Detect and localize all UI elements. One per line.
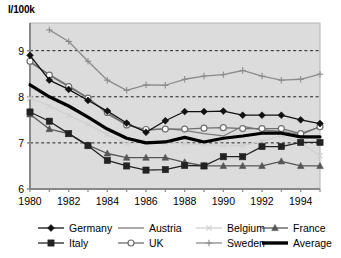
legend-item-sweden[interactable]: Sweden [196, 237, 265, 249]
legend-label: Belgium [227, 222, 265, 234]
svg-text:1988: 1988 [173, 195, 197, 207]
plot-area-background [30, 23, 320, 189]
x-axis-tick-labels: 19801982198419861988199019921994 [18, 195, 312, 207]
legend-label: Italy [69, 237, 89, 249]
svg-text:6: 6 [18, 183, 24, 195]
svg-text:7: 7 [18, 137, 24, 149]
svg-text:1986: 1986 [134, 195, 158, 207]
legend-item-italy[interactable]: Italy [38, 237, 89, 249]
legend-item-germany[interactable]: Germany [38, 222, 113, 234]
legend-label: UK [149, 237, 164, 249]
svg-text:1992: 1992 [250, 195, 274, 207]
svg-text:1984: 1984 [96, 195, 120, 207]
svg-text:1990: 1990 [212, 195, 236, 207]
svg-text:1994: 1994 [289, 195, 313, 207]
y-axis-tick-labels: 6789 [18, 45, 30, 195]
chart-legend: GermanyAustriaBelgiumFranceItalyUKSweden… [38, 222, 332, 249]
legend-item-uk[interactable]: UK [118, 237, 164, 249]
line-chart: 6789 19801982198419861988199019921994 Ge… [0, 0, 341, 258]
legend-label: France [293, 222, 326, 234]
legend-item-average[interactable]: Average [262, 237, 332, 249]
svg-text:9: 9 [18, 45, 24, 57]
legend-label: Germany [69, 222, 113, 234]
chart-figure: I/100k 6789 1980198219841986198819901992… [0, 0, 341, 258]
legend-label: Austria [149, 222, 182, 234]
svg-text:1982: 1982 [57, 195, 81, 207]
legend-label: Average [293, 237, 332, 249]
legend-label: Sweden [227, 237, 265, 249]
svg-text:8: 8 [18, 91, 24, 103]
svg-text:1980: 1980 [18, 195, 42, 207]
legend-item-austria[interactable]: Austria [118, 222, 182, 234]
legend-item-belgium[interactable]: Belgium [196, 222, 265, 234]
legend-item-france[interactable]: France [262, 222, 326, 234]
